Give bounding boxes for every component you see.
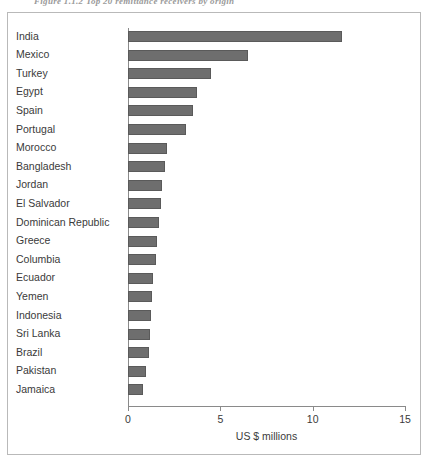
category-label: Ecuador [22, 272, 122, 283]
bar [128, 310, 151, 321]
category-label-text: Bangladesh [16, 161, 122, 172]
category-label-text: Spain [16, 105, 122, 116]
bar [128, 198, 161, 209]
category-label-text: Egypt [16, 86, 122, 97]
x-axis-line [128, 406, 405, 407]
category-label: Egypt [22, 86, 122, 97]
category-label: Bangladesh [22, 161, 122, 172]
bar [128, 143, 167, 154]
category-label-text: Yemen [16, 291, 122, 302]
category-label-text: Mexico [16, 49, 122, 60]
category-label-text: Greece [16, 235, 122, 246]
category-label: Jordan [22, 179, 122, 190]
bar [128, 50, 248, 61]
category-label: Spain [22, 105, 122, 116]
bar [128, 273, 153, 284]
x-axis-title: US $ millions [128, 430, 405, 442]
bar [128, 291, 152, 302]
bar [128, 366, 146, 377]
category-label: India [22, 31, 122, 42]
category-label: Turkey [22, 68, 122, 79]
x-axis-tick-label: 15 [399, 413, 411, 425]
bar [128, 217, 159, 228]
x-axis-tick [405, 406, 406, 411]
bar [128, 105, 193, 116]
category-label-text: El Salvador [16, 198, 122, 209]
x-axis-tick [220, 406, 221, 411]
category-label-text: Pakistan [16, 365, 122, 376]
bar [128, 347, 149, 358]
category-label: Morocco [22, 142, 122, 153]
bar-chart: IndiaMexicoTurkeyEgyptSpainPortugalMoroc… [0, 0, 430, 464]
bar [128, 329, 150, 340]
x-axis-tick-label: 0 [125, 413, 131, 425]
bar [128, 31, 342, 42]
x-axis-tick [313, 406, 314, 411]
category-label-text: Jamaica [16, 384, 122, 395]
category-label-text: Sri Lanka [16, 328, 122, 339]
bar [128, 87, 197, 98]
bar [128, 68, 211, 79]
category-label-text: Morocco [16, 142, 122, 153]
category-label: Mexico [22, 49, 122, 60]
x-axis-tick-label: 5 [217, 413, 223, 425]
category-label: Portugal [22, 124, 122, 135]
category-label-text: Brazil [16, 347, 122, 358]
category-label: Greece [22, 235, 122, 246]
category-label: Sri Lanka [22, 328, 122, 339]
category-label-text: Ecuador [16, 272, 122, 283]
category-label-text: India [16, 31, 122, 42]
category-label: Indonesia [22, 310, 122, 321]
category-label-text: Columbia [16, 254, 122, 265]
bar [128, 236, 157, 247]
category-label: Brazil [22, 347, 122, 358]
x-axis-tick-label: 10 [307, 413, 319, 425]
category-label-text: Turkey [16, 68, 122, 79]
category-label-text: Indonesia [16, 310, 122, 321]
category-label-text: Portugal [16, 124, 122, 135]
bar [128, 180, 162, 191]
x-axis-tick [128, 406, 129, 411]
category-label: Pakistan [22, 365, 122, 376]
category-label: Yemen [22, 291, 122, 302]
bar [128, 254, 156, 265]
bar [128, 161, 165, 172]
category-label: Columbia [22, 254, 122, 265]
category-label-text: Dominican Republic [16, 217, 122, 228]
category-label: Dominican Republic [22, 217, 122, 228]
category-label: Jamaica [22, 384, 122, 395]
bar [128, 124, 186, 135]
category-label: El Salvador [22, 198, 122, 209]
category-label-text: Jordan [16, 179, 122, 190]
bar [128, 384, 143, 395]
